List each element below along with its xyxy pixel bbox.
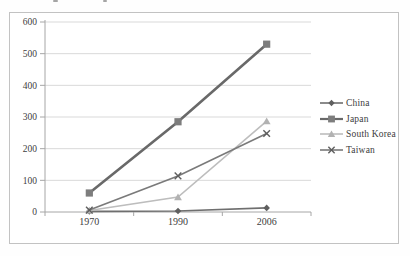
diamond-marker-icon bbox=[175, 208, 182, 215]
legend-swatch bbox=[320, 145, 343, 155]
chart-legend: ChinaJapanSouth KoreaTaiwan bbox=[320, 98, 396, 155]
legend-swatch bbox=[320, 129, 343, 139]
diamond-marker-icon bbox=[263, 205, 270, 212]
y-tick-label: 500 bbox=[23, 49, 38, 59]
legend-label: China bbox=[346, 98, 370, 108]
y-tick-label: 100 bbox=[23, 176, 38, 186]
square-marker-icon bbox=[86, 189, 93, 196]
legend-label: Taiwan bbox=[346, 145, 375, 155]
x-tick-label: 2006 bbox=[257, 216, 277, 227]
y-tick-label: 400 bbox=[23, 81, 38, 91]
square-marker-icon bbox=[328, 115, 335, 122]
y-tick-label: 300 bbox=[23, 112, 38, 122]
x-tick-label: 1970 bbox=[79, 216, 99, 227]
legend-swatch bbox=[320, 98, 343, 108]
x-tick-label: 1990 bbox=[168, 216, 188, 227]
y-tick-label: 600 bbox=[23, 17, 38, 27]
diamond-marker-icon bbox=[328, 100, 334, 106]
legend-label: South Korea bbox=[346, 129, 396, 139]
legend-item-taiwan: Taiwan bbox=[320, 145, 396, 155]
triangle-marker-icon bbox=[263, 117, 271, 124]
square-marker-icon bbox=[263, 41, 270, 48]
y-tick-label: 0 bbox=[32, 207, 37, 217]
y-tick-label: 200 bbox=[23, 144, 38, 154]
legend-item-china: China bbox=[320, 98, 396, 108]
legend-swatch bbox=[320, 114, 343, 124]
legend-label: Japan bbox=[346, 114, 369, 124]
legend-item-japan: Japan bbox=[320, 114, 396, 124]
legend-item-south-korea: South Korea bbox=[320, 129, 396, 139]
square-marker-icon bbox=[174, 118, 181, 125]
